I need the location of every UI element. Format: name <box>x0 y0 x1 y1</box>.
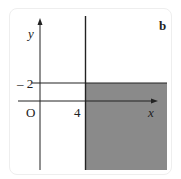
shaded-region <box>85 83 167 170</box>
region-diagram: y x O 4 – 2 b <box>0 0 181 179</box>
origin-label: O <box>26 105 35 120</box>
panel-label: b <box>159 18 166 33</box>
y-axis-label: y <box>26 26 34 41</box>
y-tick-label: – 2 <box>16 76 33 91</box>
x-axis-label: x <box>147 105 154 120</box>
y-axis-arrow-icon <box>38 18 43 25</box>
x-tick-label: 4 <box>74 105 81 120</box>
